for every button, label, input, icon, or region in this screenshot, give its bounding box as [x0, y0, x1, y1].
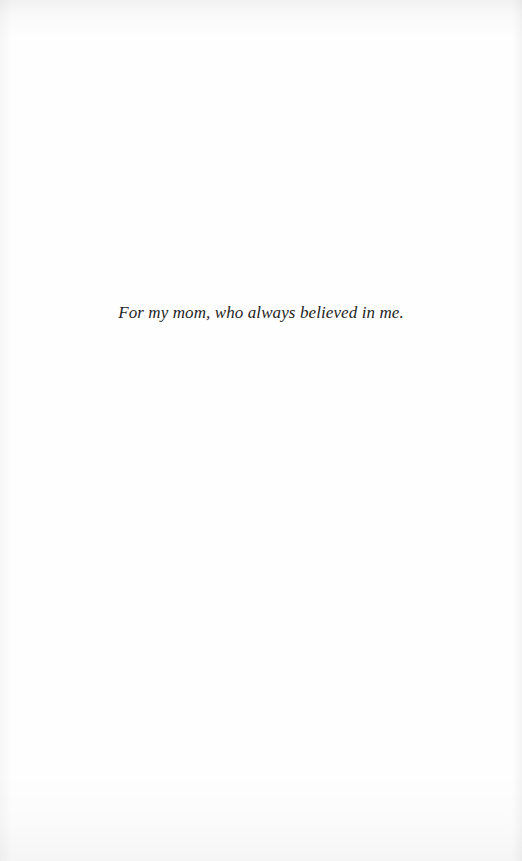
book-page: For my mom, who always believed in me.: [0, 0, 522, 861]
dedication-text: For my mom, who always believed in me.: [0, 302, 522, 324]
